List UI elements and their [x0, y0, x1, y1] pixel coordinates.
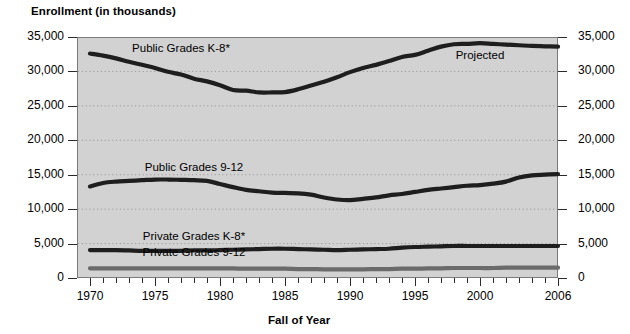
y-tick-label: 25,000 [27, 98, 64, 112]
x-tick-mark-minor [246, 278, 247, 283]
series-label-2: Private Grades K-8* [143, 230, 245, 242]
x-tick-mark-major [558, 278, 559, 286]
x-tick-label: 2006 [545, 289, 572, 303]
y-tick-label: 15,000 [27, 167, 64, 181]
y-tick-mark [558, 71, 567, 72]
series-label-0: Public Grades K-8* [132, 42, 230, 54]
x-tick-label: 1975 [142, 289, 169, 303]
x-tick-label: 1980 [207, 289, 234, 303]
x-tick-mark-minor [129, 278, 130, 283]
y-tick-label: 10,000 [27, 201, 64, 215]
y-tick-label: 0 [578, 270, 585, 284]
x-tick-label: 1970 [77, 289, 104, 303]
y-tick-mark [68, 37, 77, 38]
y-tick-label: 10,000 [578, 201, 615, 215]
x-tick-mark-major [90, 278, 91, 286]
y-tick-label: 20,000 [578, 132, 615, 146]
x-tick-label: 1995 [402, 289, 429, 303]
y-tick-mark [68, 71, 77, 72]
y-tick-mark [68, 106, 77, 107]
x-tick-mark-minor [402, 278, 403, 283]
y-tick-mark [68, 244, 77, 245]
y-tick-label: 20,000 [27, 132, 64, 146]
y-tick-label: 25,000 [578, 98, 615, 112]
x-tick-mark-minor [545, 278, 546, 283]
x-tick-mark-minor [181, 278, 182, 283]
y-axis-title: Enrollment (in thousands) [31, 5, 176, 17]
x-tick-mark-minor [454, 278, 455, 283]
y-tick-label: 15,000 [578, 167, 615, 181]
plot-area [77, 37, 558, 278]
y-tick-mark [558, 37, 567, 38]
x-tick-mark-minor [103, 278, 104, 283]
x-tick-mark-minor [116, 278, 117, 283]
y-tick-mark [68, 140, 77, 141]
x-tick-mark-major [350, 278, 351, 286]
x-tick-mark-minor [233, 278, 234, 283]
series-label-3: Private Grades 9-12 [143, 246, 246, 258]
x-tick-mark-major [415, 278, 416, 286]
x-tick-mark-minor [324, 278, 325, 283]
y-tick-mark [558, 278, 567, 279]
y-tick-mark [558, 106, 567, 107]
y-tick-mark [68, 175, 77, 176]
x-tick-label: 2000 [467, 289, 494, 303]
x-tick-mark-major [220, 278, 221, 286]
x-tick-mark-minor [389, 278, 390, 283]
x-tick-label: 1990 [337, 289, 364, 303]
x-tick-mark-minor [506, 278, 507, 283]
x-tick-mark-minor [272, 278, 273, 283]
y-tick-label: 30,000 [27, 63, 64, 77]
y-tick-label: 35,000 [27, 29, 64, 43]
x-tick-mark-minor [441, 278, 442, 283]
x-tick-mark-minor [298, 278, 299, 283]
x-tick-mark-minor [493, 278, 494, 283]
y-tick-mark [68, 278, 77, 279]
enrollment-line-chart: Enrollment (in thousands) 05,00010,00015… [0, 0, 630, 334]
y-tick-label: 35,000 [578, 29, 615, 43]
series-label-1: Public Grades 9-12 [145, 161, 243, 173]
x-tick-mark-minor [207, 278, 208, 283]
y-tick-label: 0 [57, 270, 64, 284]
x-tick-mark-minor [376, 278, 377, 283]
y-tick-mark [558, 244, 567, 245]
x-tick-mark-minor [532, 278, 533, 283]
y-tick-label: 5,000 [578, 236, 608, 250]
x-tick-mark-minor [311, 278, 312, 283]
x-tick-mark-major [155, 278, 156, 286]
y-tick-mark [68, 209, 77, 210]
x-tick-mark-minor [428, 278, 429, 283]
y-tick-mark [558, 175, 567, 176]
x-tick-mark-minor [259, 278, 260, 283]
y-tick-mark [558, 140, 567, 141]
x-tick-mark-minor [337, 278, 338, 283]
x-tick-mark-major [480, 278, 481, 286]
x-tick-mark-major [285, 278, 286, 286]
x-tick-mark-minor [194, 278, 195, 283]
x-axis-title: Fall of Year [268, 314, 330, 326]
x-tick-mark-minor [142, 278, 143, 283]
x-tick-mark-minor [363, 278, 364, 283]
y-tick-label: 30,000 [578, 63, 615, 77]
x-tick-mark-minor [168, 278, 169, 283]
x-tick-mark-minor [467, 278, 468, 283]
x-tick-mark-minor [519, 278, 520, 283]
y-tick-label: 5,000 [34, 236, 64, 250]
annotation-0: Projected [456, 49, 505, 61]
y-tick-mark [558, 209, 567, 210]
x-tick-label: 1985 [272, 289, 299, 303]
